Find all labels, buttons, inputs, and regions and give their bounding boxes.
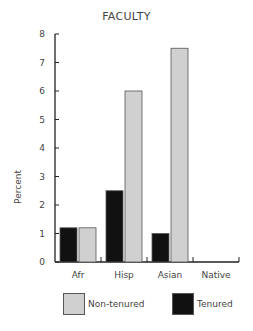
legend-label-non-tenured: Non-tenured (88, 299, 144, 309)
y-tick-label: 5 (39, 115, 45, 125)
y-tick-label: 1 (39, 229, 45, 239)
y-tick-label: 7 (39, 58, 45, 68)
x-tick-label: Native (201, 270, 231, 280)
bar-non-tenured-afr (79, 228, 96, 262)
legend-item-tenured: Tenured (172, 293, 233, 315)
non-tenured-swatch (63, 293, 85, 315)
y-tick-label: 2 (39, 200, 45, 210)
x-tick-label: Afr (72, 270, 85, 280)
tenured-swatch (172, 293, 194, 315)
bar-tenured-afr (60, 228, 77, 262)
bar-tenured-asian (152, 234, 169, 263)
legend-item-non-tenured: Non-tenured (63, 293, 144, 315)
bar-chart-plot: 012345678AfrHispAsianNative (0, 0, 253, 331)
legend-label-tenured: Tenured (197, 299, 233, 309)
y-tick-label: 3 (39, 172, 45, 182)
bar-non-tenured-hisp (125, 91, 142, 262)
bar-non-tenured-asian (171, 48, 188, 262)
x-tick-label: Asian (158, 270, 183, 280)
y-tick-label: 6 (39, 86, 45, 96)
x-tick-label: Hisp (114, 270, 134, 280)
chart-legend: Non-tenured Tenured (0, 293, 253, 323)
y-tick-label: 0 (39, 257, 45, 267)
y-tick-label: 4 (39, 143, 45, 153)
y-tick-label: 8 (39, 29, 45, 39)
bar-tenured-hisp (106, 191, 123, 262)
